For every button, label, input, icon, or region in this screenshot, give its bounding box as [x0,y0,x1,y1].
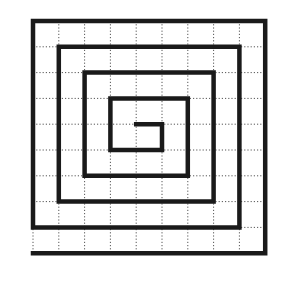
square-spiral-line [33,21,265,253]
spiral-diagram [0,0,286,285]
dotted-grid [33,21,265,253]
